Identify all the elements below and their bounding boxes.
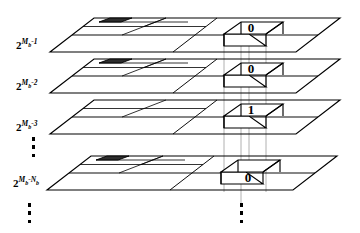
plane-2-level-label: 2Mb-2 [16,79,37,92]
bit-cell-4: 0 [221,160,280,185]
bit-value-2: 0 [248,61,255,76]
plane-2-surface [50,59,340,93]
ellipsis-dot [240,203,244,207]
bit-cell-3: 1 [224,102,283,128]
ellipsis-dot [32,154,36,158]
ellipsis-dot [28,203,32,207]
ellipsis-dot [28,211,32,215]
ellipsis-left-bottom [26,203,33,223]
bit-cell-2: 0 [224,61,283,87]
plane-3-surface [50,100,340,134]
plane-n-surface [47,156,337,190]
ellipsis-dot [32,137,36,141]
ellipsis-dot [240,211,244,215]
ellipsis-right-bottom [238,203,245,223]
ellipsis-dot [28,220,32,224]
plane-1-level-label: 2Mb-1 [16,38,37,51]
ellipsis-left-middle [30,137,37,157]
bit-value-3: 1 [248,102,255,117]
bit-value-1: 0 [248,20,255,35]
ellipsis-dot [32,145,36,149]
ellipsis-dot [240,220,244,224]
bit-cell-1: 0 [224,20,283,46]
bit-value-4: 0 [245,170,252,185]
plane-1-surface [50,18,340,52]
plane-3-level-label: 2Mb-3 [16,120,37,133]
figure-diagram: .pl { fill:none; stroke:#000000; stroke-… [0,0,360,233]
figure-root: .pl { fill:none; stroke:#000000; stroke-… [0,0,360,233]
plane-n-level-label: 2Mb-Nb [13,176,39,189]
